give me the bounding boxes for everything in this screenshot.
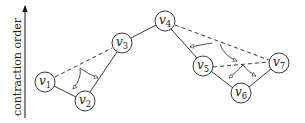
edge-v3-v4: [131, 25, 156, 38]
contraction-hierarchy-diagram: contraction order v1 v2: [0, 0, 305, 123]
node-v5: v5: [193, 56, 213, 76]
edge-v6-v7: [249, 69, 271, 87]
contraction-order-axis: contraction order: [11, 6, 25, 118]
node-v6: v6: [231, 83, 251, 103]
node-v4: v4: [155, 11, 175, 31]
shortcut-edges: [55, 25, 269, 77]
hint-arrow-to-v1v2: [73, 68, 80, 89]
node-v2: v2: [75, 91, 95, 111]
edge-v4-v5: [171, 29, 197, 58]
hint-arrow-to-v6v7: [243, 65, 256, 76]
edge-v5-v6: [211, 71, 233, 88]
hint-arrow-to-v5v7: [220, 44, 237, 61]
shortcut-v5-v7: [213, 62, 269, 67]
edge-v2-v3: [90, 52, 117, 92]
node-v1: v1: [35, 72, 55, 92]
hint-arrow-to-v5v6: [229, 65, 243, 78]
edge-v1-v2: [54, 86, 76, 97]
node-v3: v3: [112, 33, 132, 53]
hint-arrow-to-v2v3: [80, 68, 98, 78]
node-v7: v7: [269, 53, 289, 73]
shortcut-v4-v7: [175, 25, 269, 60]
hint-arrow-to-v4v5: [190, 43, 212, 47]
axis-label: contraction order: [11, 17, 24, 116]
